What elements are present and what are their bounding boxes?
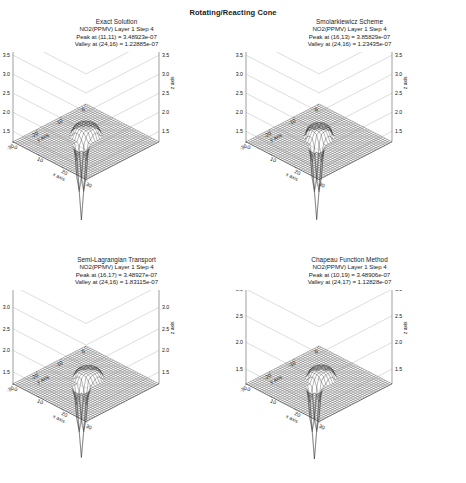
- panel-subtitle: NO2(PPMV) Layer 1 Step 4: [0, 25, 233, 32]
- svg-text:1.5: 1.5: [162, 128, 169, 134]
- panel-subtitle: NO2(PPMV) Layer 1 Step 4: [233, 25, 466, 32]
- panel-chapeau-function-method: Chapeau Function Method NO2(PPMV) Layer …: [233, 256, 466, 483]
- panel-peak: Peak at (16,13) = 3.85829e-07: [233, 33, 466, 40]
- svg-text:30: 30: [318, 423, 326, 431]
- svg-text:3.0: 3.0: [3, 71, 10, 77]
- svg-text:3.5: 3.5: [395, 52, 402, 58]
- surface-plot-svg: 1.51.52.02.02.52.53.03.00102030-30-20-10…: [233, 290, 466, 483]
- svg-text:3.0: 3.0: [3, 304, 10, 310]
- svg-text:2.5: 2.5: [395, 313, 402, 319]
- svg-text:3.5: 3.5: [162, 52, 169, 58]
- svg-text:3.0: 3.0: [236, 71, 243, 77]
- svg-text:-30: -30: [5, 385, 15, 394]
- surface-plot-svg: 1.51.52.02.02.52.53.03.03.53.50102030-30…: [0, 290, 233, 483]
- plot-axes: [12, 52, 159, 181]
- svg-text:1.5: 1.5: [162, 369, 169, 375]
- svg-text:1.5: 1.5: [3, 369, 10, 375]
- svg-text:10: 10: [269, 156, 277, 164]
- svg-text:2.0: 2.0: [395, 109, 402, 115]
- svg-text:10: 10: [36, 398, 44, 406]
- panel-exact-solution: Exact Solution NO2(PPMV) Layer 1 Step 4 …: [0, 18, 233, 259]
- panel-subtitle: NO2(PPMV) Layer 1 Step 4: [0, 263, 233, 270]
- svg-text:10: 10: [269, 398, 277, 406]
- panel-caption: Smolarkiewicz Scheme NO2(PPMV) Layer 1 S…: [233, 18, 466, 48]
- panel-valley: Valley at (24,16) = 1.83115e-07: [0, 278, 233, 285]
- svg-text:1.5: 1.5: [236, 128, 243, 134]
- panel-caption: Chapeau Function Method NO2(PPMV) Layer …: [233, 256, 466, 286]
- panel-title: Semi-Lagrangian Transport: [0, 256, 233, 263]
- svg-text:3.0: 3.0: [236, 290, 243, 292]
- panel-title: Smolarkiewicz Scheme: [233, 18, 466, 25]
- svg-text:1.5: 1.5: [236, 366, 243, 372]
- figure-root: Rotating/Reacting Cone Exact Solution NO…: [0, 0, 466, 483]
- svg-text:z axis: z axis: [169, 321, 175, 334]
- svg-text:2.0: 2.0: [236, 339, 243, 345]
- surface-plot-svg: 1.51.52.02.02.52.53.03.03.53.54.04.00102…: [0, 52, 233, 257]
- panel-peak: Peak at (10,19) = 3.48906e-07: [233, 271, 466, 278]
- svg-text:2.5: 2.5: [395, 90, 402, 96]
- wireframe-mesh: [13, 104, 159, 220]
- surface-plot: 1.51.52.02.02.52.53.03.03.53.54.04.00102…: [233, 52, 466, 257]
- panel-title: Chapeau Function Method: [233, 256, 466, 263]
- panel-caption: Exact Solution NO2(PPMV) Layer 1 Step 4 …: [0, 18, 233, 48]
- panel-caption: Semi-Lagrangian Transport NO2(PPMV) Laye…: [0, 256, 233, 286]
- svg-text:z axis: z axis: [169, 76, 175, 89]
- svg-text:-30: -30: [238, 143, 248, 152]
- panel-peak: Peak at (11,11) = 3.48923e-07: [0, 33, 233, 40]
- svg-text:1.5: 1.5: [395, 128, 402, 134]
- svg-text:2.5: 2.5: [236, 90, 243, 96]
- svg-text:3.5: 3.5: [236, 52, 243, 58]
- panel-semi-lagrangian-transport: Semi-Lagrangian Transport NO2(PPMV) Laye…: [0, 256, 233, 483]
- panel-valley: Valley at (24,16) = 1.22885e-07: [0, 40, 233, 47]
- panel-peak: Peak at (16,17) = 3.48927e-07: [0, 271, 233, 278]
- svg-text:2.0: 2.0: [236, 109, 243, 115]
- svg-text:2.0: 2.0: [162, 347, 169, 353]
- svg-text:2.0: 2.0: [3, 109, 10, 115]
- svg-text:30: 30: [85, 181, 93, 189]
- panel-valley: Valley at (24,16) = 1.23435e-07: [233, 40, 466, 47]
- svg-text:z axis: z axis: [402, 76, 408, 89]
- figure-title: Rotating/Reacting Cone: [0, 8, 466, 17]
- svg-text:3.0: 3.0: [162, 304, 169, 310]
- surface-plot-svg: 1.51.52.02.02.52.53.03.03.53.54.04.00102…: [233, 52, 466, 257]
- svg-text:2.5: 2.5: [236, 313, 243, 319]
- svg-text:3.0: 3.0: [162, 71, 169, 77]
- svg-text:10: 10: [36, 156, 44, 164]
- svg-text:2.5: 2.5: [162, 90, 169, 96]
- svg-text:3.0: 3.0: [395, 290, 402, 292]
- svg-text:2.0: 2.0: [162, 109, 169, 115]
- svg-text:1.5: 1.5: [3, 128, 10, 134]
- svg-text:2.0: 2.0: [395, 339, 402, 345]
- svg-text:3.5: 3.5: [3, 52, 10, 58]
- panel-title: Exact Solution: [0, 18, 233, 25]
- surface-plot: 1.51.52.02.02.52.53.03.03.53.54.04.00102…: [0, 52, 233, 257]
- wireframe-mesh: [246, 104, 392, 220]
- svg-text:1.5: 1.5: [395, 366, 402, 372]
- panel-subtitle: NO2(PPMV) Layer 1 Step 4: [233, 263, 466, 270]
- panel-valley: Valley at (24,17) = 1.12828e-07: [233, 278, 466, 285]
- surface-plot: 1.51.52.02.02.52.53.03.00102030-30-20-10…: [233, 290, 466, 483]
- svg-text:-30: -30: [238, 385, 248, 394]
- svg-text:2.0: 2.0: [3, 347, 10, 353]
- surface-plot: 1.51.52.02.02.52.53.03.03.53.50102030-30…: [0, 290, 233, 483]
- wireframe-mesh: [246, 346, 392, 459]
- svg-text:z axis: z axis: [402, 321, 408, 334]
- svg-text:30: 30: [85, 423, 93, 431]
- svg-text:2.5: 2.5: [3, 90, 10, 96]
- wireframe-mesh: [13, 346, 159, 458]
- svg-text:2.5: 2.5: [3, 326, 10, 332]
- svg-text:-30: -30: [5, 143, 15, 152]
- panel-smolarkiewicz-scheme: Smolarkiewicz Scheme NO2(PPMV) Layer 1 S…: [233, 18, 466, 259]
- svg-text:3.0: 3.0: [395, 71, 402, 77]
